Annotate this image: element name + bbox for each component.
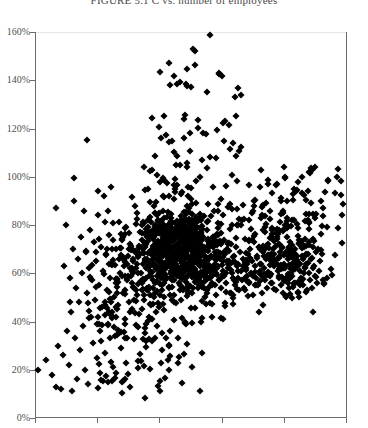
- figure-caption: FIGURE 5.1 C vs. number of employees: [0, 0, 368, 8]
- y-axis-label-120: 120%: [0, 124, 30, 134]
- figure-container: FIGURE 5.1 C vs. number of employees 0%2…: [0, 0, 368, 428]
- x-tick-4: [284, 418, 285, 423]
- y-axis-labels: 0%20%40%60%80%100%120%140%160%: [0, 32, 368, 418]
- y-axis-label-60: 60%: [0, 268, 30, 278]
- y-axis-label-100: 100%: [0, 172, 30, 182]
- x-tick-0: [35, 418, 36, 423]
- x-tick-3: [222, 418, 223, 423]
- y-axis-label-160: 160%: [0, 27, 30, 37]
- y-axis-label-40: 40%: [0, 317, 30, 327]
- x-tick-5: [346, 418, 347, 423]
- y-axis-label-140: 140%: [0, 75, 30, 85]
- x-tick-2: [159, 418, 160, 423]
- y-axis-label-0: 0%: [0, 413, 30, 423]
- y-axis-label-80: 80%: [0, 220, 30, 230]
- x-tick-1: [97, 418, 98, 423]
- y-axis-label-20: 20%: [0, 365, 30, 375]
